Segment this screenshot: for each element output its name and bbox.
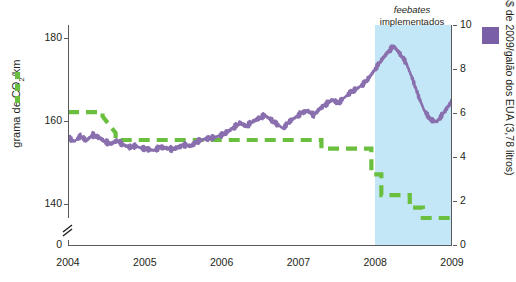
left-tick-label-0: 0 — [56, 239, 62, 250]
x-tick-label-2005: 2005 — [123, 256, 167, 268]
x-tick-label-2006: 2006 — [200, 256, 244, 268]
legend-purple-square-icon — [482, 27, 499, 44]
right-tick-label-6: 6 — [460, 107, 466, 118]
fuel-price-series-line — [68, 45, 452, 151]
right-tick-label-8: 8 — [460, 63, 466, 74]
x-tick-label-2004: 2004 — [46, 256, 90, 268]
series-svg — [68, 25, 452, 245]
left-tick-label-180: 180 — [44, 32, 62, 43]
right-tick-2 — [453, 201, 457, 202]
left-y-axis-line — [68, 25, 69, 245]
left-tick-label-140: 140 — [44, 198, 62, 209]
left-tick-label-160: 160 — [44, 115, 62, 126]
right-tick-0 — [453, 245, 457, 246]
right-tick-label-2: 2 — [460, 195, 466, 206]
left-axis-title: grama de CO2/km — [10, 24, 25, 184]
right-tick-6 — [453, 113, 457, 114]
right-y-axis-line — [451, 25, 452, 245]
x-tick-label-2007: 2007 — [276, 256, 320, 268]
right-axis-title: US$ de 2009/galão dos EUA (3,78 litros) — [504, 0, 516, 196]
right-tick-8 — [453, 69, 457, 70]
left-tick-180 — [64, 38, 68, 39]
x-tick-label-2009: 2009 — [430, 256, 474, 268]
x-axis-line — [68, 245, 452, 246]
left-tick-140 — [64, 204, 68, 205]
plot-area — [68, 25, 452, 245]
legend-green-dashed-icon — [15, 72, 20, 100]
right-tick-label-0: 0 — [460, 239, 466, 250]
right-tick-10 — [453, 25, 457, 26]
axis-break-icon — [60, 218, 78, 240]
left-tick-160 — [64, 121, 68, 122]
co2-series-line — [68, 112, 452, 218]
right-tick-label-10: 10 — [460, 19, 472, 30]
x-tick-label-2008: 2008 — [353, 256, 397, 268]
right-tick-4 — [453, 157, 457, 158]
feebates-annotation: feebates implementados — [366, 4, 458, 27]
right-tick-label-4: 4 — [460, 151, 466, 162]
annotation-line-1: feebates — [394, 4, 430, 15]
